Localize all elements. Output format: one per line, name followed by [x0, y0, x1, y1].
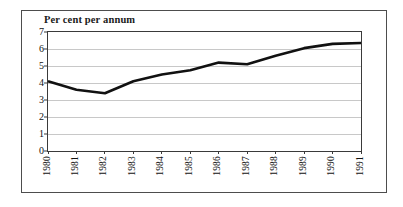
x-axis-tick-mark-1984	[161, 151, 162, 155]
x-axis-tick-mark-1989	[304, 151, 305, 155]
x-axis-tick-label-1989: 1989	[299, 156, 309, 176]
x-axis-tick-label-1986: 1986	[213, 156, 223, 176]
series-line-group	[48, 32, 361, 151]
x-axis-tick-label-1985: 1985	[185, 156, 195, 176]
chart-frame: Per cent per annum 01234567 198019811982…	[21, 10, 387, 193]
x-axis-tick-mark-1988	[275, 151, 276, 155]
x-axis-tick-mark-1982	[104, 151, 105, 155]
x-axis-tick-mark-1990	[332, 151, 333, 155]
x-axis-tick-label-1982: 1982	[99, 156, 109, 176]
plot-area: 01234567 1980198119821983198419851986198…	[47, 31, 362, 152]
x-axis-tick-label-1984: 1984	[156, 156, 166, 176]
x-axis-tick-mark-1986	[218, 151, 219, 155]
series-line-per-cent-per-annum	[48, 43, 361, 93]
chart-title: Per cent per annum	[44, 14, 135, 25]
x-axis-tick-mark-1985	[190, 151, 191, 155]
x-axis-tick-mark-1983	[133, 151, 134, 155]
x-axis-tick-mark-1991	[361, 151, 362, 155]
x-axis-tick-label-1981: 1981	[71, 156, 81, 176]
x-axis-tick-label-1990: 1990	[327, 156, 337, 176]
x-axis-tick-label-1980: 1980	[43, 156, 53, 176]
x-axis-tick-label-1988: 1988	[270, 156, 280, 176]
x-axis-tick-mark-1980	[48, 151, 49, 155]
x-axis-tick-label-1987: 1987	[242, 156, 252, 176]
x-axis-tick-mark-1987	[247, 151, 248, 155]
x-axis-tick-label-1991: 1991	[356, 156, 366, 176]
x-axis-tick-mark-1981	[76, 151, 77, 155]
x-axis-tick-label-1983: 1983	[128, 156, 138, 176]
